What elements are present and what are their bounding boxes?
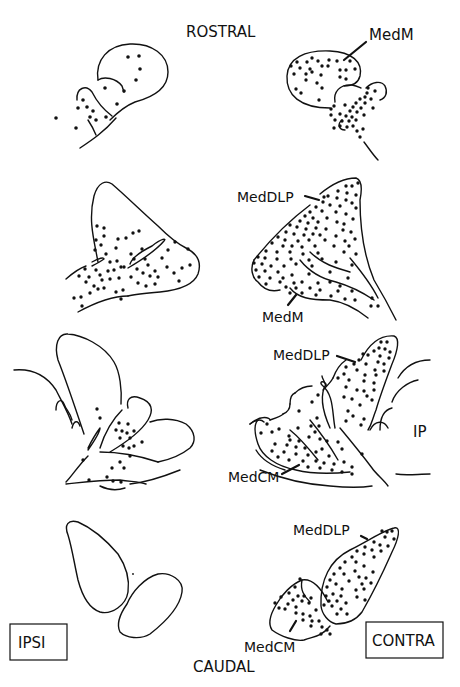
s2-meddlp-label: MedDLP (237, 189, 294, 205)
s4-meddlp-leader (361, 536, 367, 539)
s3-ip-label: IP (413, 423, 426, 441)
section4-ipsi (66, 521, 182, 637)
s3-meddlp-label: MedDLP (273, 347, 330, 363)
s3-meddlp-leader (337, 356, 355, 362)
section2-ipsi (66, 182, 200, 312)
section2-contra: MedDLP MedM (237, 178, 396, 325)
rostral-label: ROSTRAL (186, 23, 256, 41)
contra-box: CONTRA (366, 622, 443, 658)
s1-medm-leader (344, 42, 366, 60)
ipsi-label: IPSI (18, 634, 45, 652)
section1-contra: MedM (287, 26, 414, 160)
section3-ipsi (14, 334, 194, 490)
s1-medm-label: MedM (369, 26, 414, 44)
s2-medm-leader (288, 295, 296, 305)
s2-medm-label: MedM (262, 309, 304, 325)
s4-meddlp-label: MedDLP (293, 522, 350, 538)
section3-contra: MedDLP MedCM IP (228, 336, 430, 488)
s2-meddlp-leader (305, 196, 319, 200)
s3-medcm-label: MedCM (228, 469, 279, 485)
section1-ipsi (54, 44, 168, 148)
ipsi-box: IPSI (10, 624, 67, 660)
s4-medcm-leader (290, 621, 296, 631)
contra-label: CONTRA (372, 632, 435, 650)
caudal-label: CAUDAL (193, 658, 255, 676)
neuroanatomy-figure: ROSTRAL CAUDAL IPSI CONTRA (0, 0, 460, 687)
s4-medcm-label: MedCM (244, 639, 295, 655)
